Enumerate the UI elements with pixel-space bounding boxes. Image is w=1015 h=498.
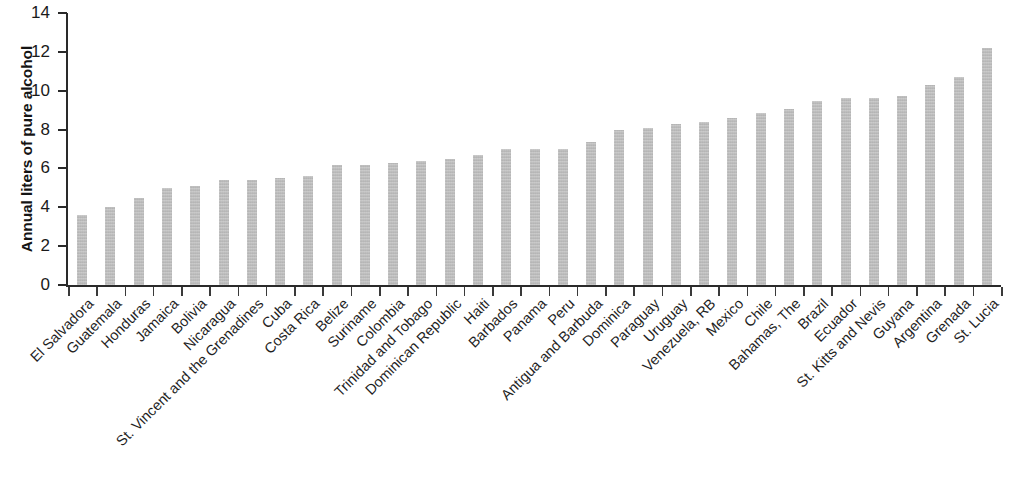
x-tick-mark [1001, 287, 1003, 296]
bar [699, 122, 709, 285]
bar [247, 180, 257, 285]
bar [925, 85, 935, 285]
x-tick-mark [577, 287, 579, 296]
x-tick-mark [605, 287, 607, 296]
bar [756, 113, 766, 285]
bar [134, 198, 144, 285]
bar [530, 149, 540, 285]
bar [416, 161, 426, 285]
y-tick-label: 12 [20, 43, 50, 60]
y-tick-mark [58, 206, 67, 208]
y-tick-mark [58, 129, 67, 131]
bar [954, 77, 964, 285]
bar [558, 149, 568, 285]
bar [445, 159, 455, 285]
x-tick-mark [492, 287, 494, 296]
x-tick-mark [860, 287, 862, 296]
bar [219, 180, 229, 285]
x-tick-mark [322, 287, 324, 296]
bar [614, 130, 624, 285]
bar [897, 96, 907, 285]
bar [190, 186, 200, 285]
x-tick-mark [916, 287, 918, 296]
y-tick-mark [58, 167, 67, 169]
bar [643, 128, 653, 285]
y-tick-label: 6 [20, 159, 50, 176]
bar [671, 124, 681, 285]
bar [77, 215, 87, 285]
y-tick-mark [58, 51, 67, 53]
bar [105, 207, 115, 285]
x-tick-mark [888, 287, 890, 296]
x-tick-mark [831, 287, 833, 296]
x-tick-mark [96, 287, 98, 296]
bar [473, 155, 483, 285]
x-tick-mark [153, 287, 155, 296]
x-tick-mark [407, 287, 409, 296]
y-tick-label: 8 [20, 121, 50, 138]
x-tick-mark [718, 287, 720, 296]
bar [586, 142, 596, 285]
bar [275, 178, 285, 285]
bar-chart: Annual liters of pure alcohol 0246810121… [0, 0, 1015, 498]
bar [784, 109, 794, 285]
x-tick-mark [549, 287, 551, 296]
x-tick-mark [747, 287, 749, 296]
y-tick-label: 2 [20, 237, 50, 254]
y-tick-mark [58, 12, 67, 14]
x-tick-mark [775, 287, 777, 296]
y-tick-mark [58, 245, 67, 247]
bar [162, 188, 172, 285]
x-tick-mark [803, 287, 805, 296]
bar [303, 176, 313, 285]
x-tick-mark [973, 287, 975, 296]
y-tick-label: 4 [20, 198, 50, 215]
y-tick-mark [58, 284, 67, 286]
x-tick-mark [436, 287, 438, 296]
x-tick-mark [944, 287, 946, 296]
bar [360, 165, 370, 285]
x-tick-mark [464, 287, 466, 296]
bar [332, 165, 342, 285]
bar [388, 163, 398, 285]
bar [869, 98, 879, 285]
x-tick-mark [294, 287, 296, 296]
x-tick-mark [125, 287, 127, 296]
bar [812, 101, 822, 285]
x-tick-mark [266, 287, 268, 296]
bar [982, 48, 992, 285]
bar [501, 149, 511, 285]
x-tick-mark [633, 287, 635, 296]
x-tick-mark [238, 287, 240, 296]
x-tick-mark [662, 287, 664, 296]
y-tick-label: 14 [20, 4, 50, 21]
bar [841, 98, 851, 285]
x-tick-mark [209, 287, 211, 296]
x-tick-mark [351, 287, 353, 296]
x-tick-mark [520, 287, 522, 296]
x-tick-mark [379, 287, 381, 296]
x-tick-mark [68, 287, 70, 296]
y-tick-mark [58, 90, 67, 92]
bar [727, 118, 737, 285]
x-tick-mark [690, 287, 692, 296]
y-tick-label: 10 [20, 82, 50, 99]
x-tick-mark [181, 287, 183, 296]
y-tick-label: 0 [20, 276, 50, 293]
